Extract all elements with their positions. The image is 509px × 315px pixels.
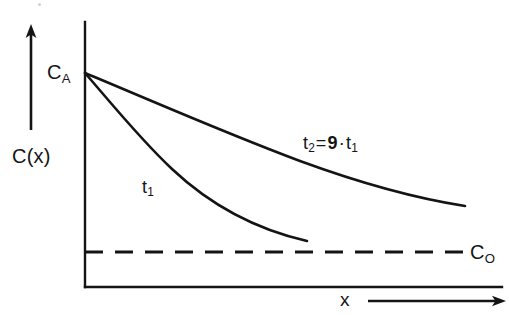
diagram-canvas (0, 0, 509, 315)
label-curve-t1: t1 (142, 178, 154, 196)
label-curve-t2-factor: 9 (328, 133, 338, 153)
label-bulk-concentration: CO (470, 242, 495, 262)
label-surface-concentration: CA (47, 62, 70, 82)
label-curve-t2-subscript: 2 (308, 141, 315, 155)
label-bulk-concentration-symbol: C (470, 241, 485, 263)
label-x-axis: x (340, 290, 350, 309)
label-surface-concentration-symbol: C (47, 61, 62, 83)
label-curve-t2-tail-subscript: 1 (351, 141, 358, 155)
scan-speck (38, 3, 41, 6)
figure-root: CA CO C(x) x t1 t2=9·t1 (0, 0, 509, 315)
label-curve-t2: t2=9·t1 (303, 134, 358, 152)
y-direction-arrow (26, 24, 37, 130)
label-curve-t1-subscript: 1 (147, 185, 154, 199)
label-surface-concentration-subscript: A (62, 71, 71, 86)
x-direction-arrow (368, 296, 506, 306)
label-y-axis: C(x) (12, 146, 51, 166)
label-curve-t2-equals: = (315, 133, 328, 153)
curve-t1 (85, 73, 307, 241)
label-curve-t2-dot: · (338, 133, 346, 153)
label-bulk-concentration-subscript: O (485, 251, 495, 266)
